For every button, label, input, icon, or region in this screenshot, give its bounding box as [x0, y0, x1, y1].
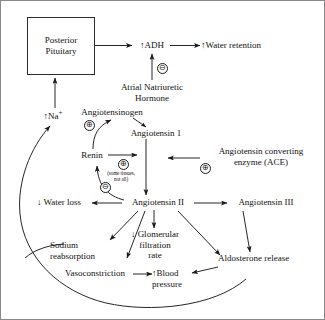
- node-angiotensin-3: Angiotensin III: [228, 197, 304, 208]
- sign-renin-on-angiotensinogen: ⊕: [84, 120, 95, 131]
- sodium-line1: Sodium: [50, 240, 116, 251]
- node-gfr: ↓ Glomerular filtration rate: [117, 229, 193, 261]
- node-vasoconstriction: Vasoconstriction: [57, 268, 133, 279]
- ace-line2: enzyme (ACE): [201, 157, 321, 168]
- node-angiotensin-2: Angiotensin II: [121, 197, 195, 208]
- gfr-line1: ↓ Glomerular: [117, 229, 193, 240]
- ace-line1: Angiotensin converting: [201, 146, 321, 157]
- node-blood-pressure: ↑Blood pressure: [152, 268, 194, 289]
- bp-line1: ↑Blood: [152, 268, 194, 279]
- node-atrial-natriuretic-hormone: Atrial Natriuretic Hormone: [104, 82, 200, 103]
- node-some-tissues-annotation: (some tissues, not all): [94, 170, 148, 182]
- sign-ace-positive: ⊕: [200, 163, 211, 174]
- node-angiotensinogen: Angiotensinogen: [76, 107, 148, 118]
- node-sodium-reabsorption: Sodium reabsorption: [50, 240, 116, 261]
- sign-renin-to-angiotensin1: ⊕: [118, 159, 129, 170]
- diagram-canvas: Posterior Pituitary ↑ADH ↑Water retentio…: [0, 0, 325, 320]
- anh-line1: Atrial Natriuretic: [104, 82, 200, 93]
- node-adh: ↑ADH: [133, 40, 171, 51]
- sign-anh-inhibits-adh: ⊖: [157, 63, 168, 74]
- node-water-loss: ↓ Water loss: [26, 197, 92, 208]
- posterior-pituitary-line1: Posterior: [45, 35, 78, 46]
- node-ace: Angiotensin converting enzyme (ACE): [201, 146, 321, 167]
- bp-line2: pressure: [152, 279, 194, 290]
- sign-angiotensin2-inhibits-renin: ⊖: [100, 182, 111, 193]
- edge-aldosterone-to-bp: [192, 267, 218, 273]
- node-aldosterone-release: Aldosterone release: [218, 253, 318, 264]
- edge-angiotensinogen-to-angiotensin1: [133, 118, 146, 127]
- edge-renin-to-angiotensinogen: [93, 120, 111, 149]
- gfr-line3: rate: [117, 250, 193, 261]
- node-angiotensin-1: Angiotensin 1: [123, 128, 189, 139]
- na-superscript: +: [59, 109, 63, 117]
- node-na-plus: ↑Na+: [36, 108, 70, 122]
- edge-angiotensin3-to-aldosterone: [243, 211, 250, 252]
- posterior-pituitary-line2: Pituitary: [45, 46, 78, 57]
- anh-line2: Hormone: [104, 93, 200, 104]
- gfr-line2: filtration: [117, 240, 193, 251]
- node-renin: Renin: [76, 150, 108, 161]
- node-water-retention: ↑Water retention: [201, 40, 297, 51]
- node-posterior-pituitary: Posterior Pituitary: [27, 17, 95, 75]
- sodium-line2: reabsorption: [50, 251, 116, 262]
- na-label: ↑Na: [44, 111, 59, 121]
